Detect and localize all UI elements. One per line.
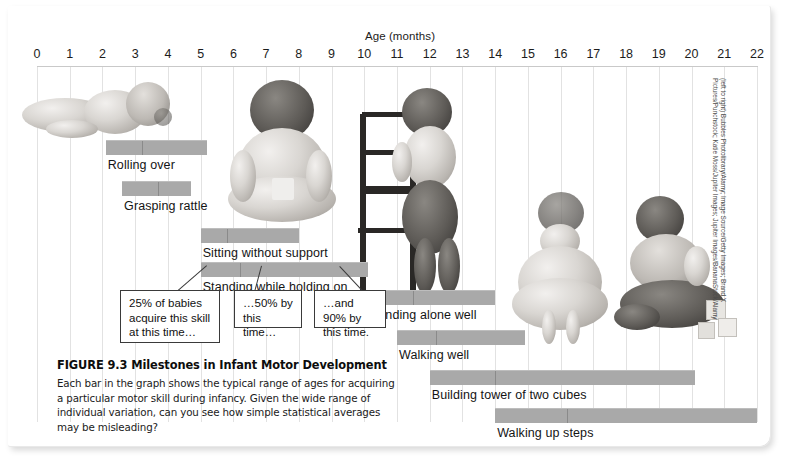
bar-median-divider <box>413 291 414 305</box>
bar-sitting-without-support <box>201 228 299 243</box>
x-tick-label-9: 9 <box>319 47 345 61</box>
bar-median-divider <box>567 409 568 423</box>
x-tick-label-20: 20 <box>679 47 705 61</box>
bar-rolling-over <box>106 140 207 155</box>
bar-median-divider <box>240 263 241 277</box>
x-tick-label-12: 12 <box>417 47 443 61</box>
bar-median-divider <box>158 182 159 196</box>
caption-title: FIGURE 9.3 Milestones in Infant Motor De… <box>57 358 397 372</box>
x-tick-label-6: 6 <box>220 47 246 61</box>
gridline-14 <box>495 67 496 422</box>
x-tick-label-11: 11 <box>384 47 410 61</box>
x-tick-label-14: 14 <box>482 47 508 61</box>
caption-body: Each bar in the graph shows the typical … <box>57 376 397 434</box>
photo-toddler-standing-alone <box>512 192 608 344</box>
bar-walking-up-steps <box>495 408 757 423</box>
gridline-22 <box>757 67 758 422</box>
bar-building-tower-of-two-cubes <box>430 370 695 385</box>
bar-median-divider <box>495 371 496 385</box>
bar-label-grasping-rattle: Grasping rattle <box>124 199 207 213</box>
x-tick-label-15: 15 <box>515 47 541 61</box>
x-axis-line <box>37 66 758 67</box>
x-tick-label-22: 22 <box>744 47 770 61</box>
photo-infant-standing-holding-chair <box>352 88 468 302</box>
x-tick-label-1: 1 <box>57 47 83 61</box>
callout-box-50: …50% by this time… <box>234 290 302 328</box>
photo-infant-sitting <box>226 80 336 230</box>
x-tick-label-10: 10 <box>351 47 377 61</box>
bar-walking-well <box>397 330 525 345</box>
figure-root: Age (months) 012345678910111213141516171… <box>0 0 795 470</box>
x-tick-label-16: 16 <box>548 47 574 61</box>
x-tick-label-7: 7 <box>253 47 279 61</box>
x-tick-label-13: 13 <box>449 47 475 61</box>
x-tick-label-21: 21 <box>711 47 737 61</box>
x-tick-label-0: 0 <box>24 47 50 61</box>
x-tick-label-4: 4 <box>155 47 181 61</box>
x-tick-label-5: 5 <box>188 47 214 61</box>
callout-box-90: …and 90% by this time. <box>314 290 386 328</box>
chart-plot-area: Age (months) 012345678910111213141516171… <box>0 0 795 470</box>
bar-label-building-tower-of-two-cubes: Building tower of two cubes <box>432 388 587 402</box>
figure-caption: FIGURE 9.3 Milestones in Infant Motor De… <box>57 358 397 434</box>
bar-label-sitting-without-support: Sitting without support <box>203 246 328 260</box>
x-tick-label-8: 8 <box>286 47 312 61</box>
x-tick-label-2: 2 <box>89 47 115 61</box>
x-tick-label-17: 17 <box>580 47 606 61</box>
x-tick-label-3: 3 <box>122 47 148 61</box>
bar-median-divider <box>142 141 143 155</box>
bar-median-divider <box>227 229 228 243</box>
bar-label-walking-up-steps: Walking up steps <box>497 426 593 440</box>
x-axis-title: Age (months) <box>330 30 470 42</box>
x-tick-label-18: 18 <box>613 47 639 61</box>
callout-box-25: 25% of babies acquire this skill at this… <box>120 290 220 343</box>
bar-label-rolling-over: Rolling over <box>108 158 175 172</box>
photo-infant-rolling-over <box>22 78 172 140</box>
bar-median-divider <box>436 331 437 345</box>
bar-grasping-rattle <box>122 181 191 196</box>
x-tick-label-19: 19 <box>646 47 672 61</box>
photo-credit: (left to right) Bubbles Photolibrary/Ala… <box>711 78 727 348</box>
bar-label-walking-well: Walking well <box>399 348 469 362</box>
